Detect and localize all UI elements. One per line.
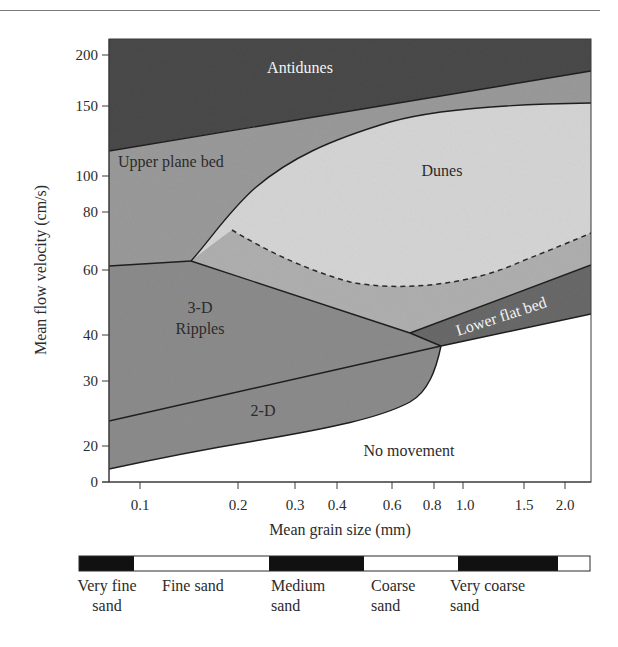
label-2d: 2-D [251, 402, 276, 419]
y-axis: 200 150 100 80 60 40 30 20 0 Mean flow v… [32, 39, 109, 490]
grain-label-very-coarse: Very coarse sand [450, 576, 525, 616]
scale-segment-gravel [558, 556, 590, 571]
y-tick-label: 150 [76, 98, 99, 114]
grain-label-medium: Medium sand [271, 576, 325, 616]
x-tick-label: 2.0 [556, 497, 575, 513]
scale-segment-coarse [364, 556, 458, 571]
label-ripples: Ripples [176, 320, 225, 338]
bedform-phase-diagram: Antidunes Upper plane bed Dunes 3-D Ripp… [0, 0, 618, 647]
x-tick-label: 1.5 [515, 497, 534, 513]
x-tick-label: 1.0 [456, 497, 475, 513]
y-tick-label: 0 [91, 474, 99, 490]
grain-label-line: Very coarse [450, 576, 525, 596]
grain-label-line: Coarse [371, 576, 415, 596]
scale-segment-fine [134, 556, 269, 571]
y-tick-label: 40 [83, 327, 98, 343]
label-3d: 3-D [188, 299, 213, 316]
label-upper-plane-bed: Upper plane bed [118, 153, 224, 171]
grain-label-fine: Fine sand [162, 576, 224, 596]
y-tick-label: 60 [83, 262, 98, 278]
grain-label-line: sand [67, 596, 147, 616]
plot-regions [109, 39, 591, 482]
label-no-movement: No movement [363, 442, 455, 459]
grain-size-scale-bar [79, 556, 590, 571]
x-tick-label: 0.6 [383, 497, 402, 513]
y-tick-label: 80 [83, 204, 98, 220]
y-tick-label: 30 [83, 373, 98, 389]
scale-segment-very-fine [79, 556, 134, 571]
x-tick-label: 0.4 [328, 497, 347, 513]
y-tick-label: 100 [76, 168, 99, 184]
grain-label-line: Fine sand [162, 576, 224, 596]
y-axis-title: Mean flow velocity (cm/s) [32, 185, 50, 355]
x-tick-label: 0.3 [286, 497, 305, 513]
grain-label-line: sand [271, 596, 325, 616]
x-tick-label: 0.2 [229, 497, 248, 513]
grain-label-line: sand [450, 596, 525, 616]
grain-label-line: Medium [271, 576, 325, 596]
x-axis-title: Mean grain size (mm) [269, 521, 411, 539]
scale-segment-very-coarse [458, 556, 558, 571]
label-antidunes: Antidunes [267, 59, 333, 76]
grain-label-line: sand [371, 596, 415, 616]
x-tick-label: 0.8 [423, 497, 442, 513]
x-tick-label: 0.1 [131, 497, 150, 513]
y-tick-label: 20 [83, 438, 98, 454]
grain-label-coarse: Coarse sand [371, 576, 415, 616]
label-dunes: Dunes [422, 162, 463, 179]
x-axis: 0.1 0.2 0.3 0.4 0.6 0.8 1.0 1.5 2.0 Mean… [102, 482, 591, 539]
scale-segment-medium [269, 556, 364, 571]
grain-label-very-fine: Very fine sand [67, 576, 147, 616]
y-tick-label: 200 [76, 47, 99, 63]
grain-label-line: Very fine [67, 576, 147, 596]
